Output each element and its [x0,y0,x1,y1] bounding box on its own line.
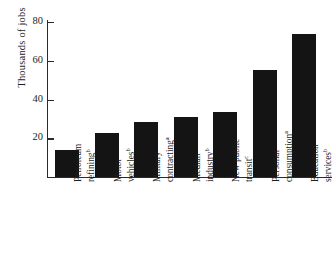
y-tick-mark [47,100,54,101]
x-label-line2: vehiclesb [123,108,137,182]
x-axis-label: New publictransitc [231,108,255,182]
x-label-line1: Petroleum [73,144,83,182]
x-label-line2-text: contracting [166,140,176,182]
x-label-line2-text: refining [87,153,97,182]
x-label-line2-text: transit [245,159,255,182]
x-axis-label: Personalconsumptiona [271,108,295,182]
y-tick-mark [47,138,54,139]
x-label-footnote-marker: c [242,156,249,159]
x-label-line2: refiningb [83,108,97,182]
x-label-line1: Motor [113,159,123,182]
x-axis-label: Motorvehiclesb [113,108,137,182]
x-label-footnote-marker: a [282,131,289,134]
x-label-line1: Median [192,154,202,182]
bar-chart: Thousands of jobs 80604020 Petroleumrefi… [0,0,336,261]
x-label-line1: Personal [271,150,281,182]
x-label-line2-text: vehicles [126,152,136,182]
x-label-line2-text: consumption [284,134,294,182]
y-tick-label: 80 [17,16,43,27]
x-axis-label: Educationservicesb [310,108,334,182]
y-tick-mark [47,61,54,62]
x-label-line2: transitc [241,108,255,182]
x-axis-label: Petroleumrefiningb [73,108,97,182]
x-label-footnote-marker: a [163,137,170,140]
y-tick-label: 60 [17,55,43,66]
x-label-line1: Military [152,152,162,182]
x-label-line1: New public [231,139,241,182]
x-axis-label: Medianindustryb [192,108,216,182]
x-label-line2-text: services [324,152,334,182]
x-label-line2: industryb [202,108,216,182]
x-label-line2-text: industry [205,152,215,182]
x-label-footnote-marker: b [84,149,91,152]
x-label-line2: servicesb [320,108,334,182]
x-label-line2: contractinga [162,108,176,182]
x-label-line2: consumptiona [281,108,295,182]
x-label-footnote-marker: b [124,148,131,151]
x-label-line1: Education [310,144,320,182]
x-label-footnote-marker: b [203,148,210,151]
y-tick-label: 20 [17,132,43,143]
x-label-footnote-marker: b [321,149,328,152]
x-axis-label: Militarycontractinga [152,108,176,182]
y-tick-mark [47,22,54,23]
y-tick-label: 40 [17,94,43,105]
